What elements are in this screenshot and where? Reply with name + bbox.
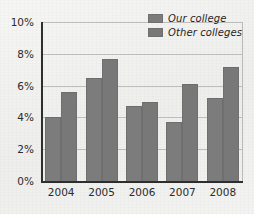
legend-swatch-icon bbox=[148, 28, 163, 37]
y-axis-tick-label: 2% bbox=[0, 143, 34, 155]
bar bbox=[142, 102, 158, 182]
bar bbox=[223, 67, 239, 181]
bar-groups bbox=[41, 22, 243, 183]
x-axis-tick-label: 2007 bbox=[169, 186, 196, 198]
bar-group bbox=[86, 59, 118, 181]
bar bbox=[166, 122, 182, 181]
x-axis-labels: 20042005200620072008 bbox=[41, 186, 243, 206]
legend-item-other-colleges: Other colleges bbox=[148, 27, 242, 38]
plot-area bbox=[41, 22, 243, 183]
y-axis-line bbox=[41, 22, 43, 183]
y-axis-tick-label: 8% bbox=[0, 48, 34, 60]
bar bbox=[207, 98, 223, 181]
y-axis-tick-label: 4% bbox=[0, 111, 34, 123]
bar bbox=[45, 117, 61, 181]
bar-group bbox=[45, 92, 77, 181]
x-axis-tick-label: 2005 bbox=[88, 186, 115, 198]
legend-swatch-icon bbox=[148, 14, 163, 23]
y-axis: 0%2%4%6%8%10% bbox=[0, 0, 41, 214]
bar bbox=[182, 84, 198, 181]
legend-item-our-college: Our college bbox=[148, 13, 242, 24]
x-axis-tick-label: 2008 bbox=[209, 186, 236, 198]
x-axis-tick-label: 2006 bbox=[129, 186, 156, 198]
y-axis-tick-label: 6% bbox=[0, 80, 34, 92]
y-axis-tick-label: 10% bbox=[0, 16, 34, 28]
bar bbox=[86, 78, 102, 181]
bar-group bbox=[207, 67, 239, 181]
bar bbox=[61, 92, 77, 181]
chart-legend: Our college Other colleges bbox=[148, 13, 242, 38]
legend-label: Our college bbox=[168, 13, 226, 24]
x-axis-line bbox=[41, 181, 243, 183]
legend-label: Other colleges bbox=[168, 27, 242, 38]
y-axis-tick-label: 0% bbox=[0, 175, 34, 187]
bar-group bbox=[166, 84, 198, 181]
bar bbox=[126, 106, 142, 181]
bar bbox=[102, 59, 118, 181]
x-axis-tick-label: 2004 bbox=[48, 186, 75, 198]
bar-group bbox=[126, 102, 158, 182]
bar-chart: 0%2%4%6%8%10% 20042005200620072008 Our c… bbox=[0, 0, 254, 214]
